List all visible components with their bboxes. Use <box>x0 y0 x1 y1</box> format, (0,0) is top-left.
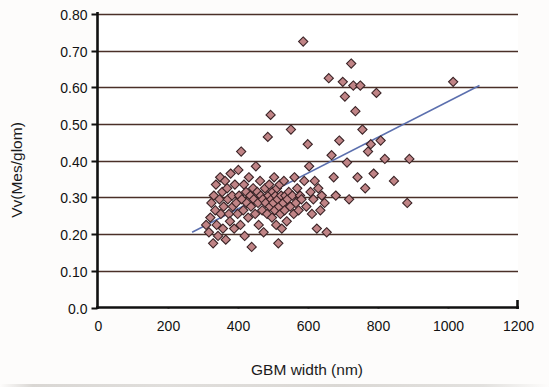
y-tick-label: 0.20 <box>60 227 87 243</box>
y-tick-label: 0.40 <box>60 154 87 170</box>
x-tick-label: 1000 <box>433 318 464 334</box>
y-axis-title: Vv(Mes/glom) <box>8 122 25 218</box>
x-tick-label: 400 <box>227 318 251 334</box>
x-axis-title: GBM width (nm) <box>251 361 363 378</box>
y-tick-label: 0.70 <box>60 44 87 60</box>
x-tick-label: 0 <box>95 318 103 334</box>
x-tick-label: 1200 <box>503 318 534 334</box>
y-tick-label: 0.10 <box>60 264 87 280</box>
x-tick-label: 600 <box>297 318 321 334</box>
x-tick-label: 800 <box>367 318 391 334</box>
y-tick-label: 0.60 <box>60 80 87 96</box>
y-tick-label: 0.80 <box>60 7 87 23</box>
y-tick-label: 0.0 <box>68 301 88 317</box>
chart-canvas: 0.00.100.200.300.400.500.600.700.80 0200… <box>0 0 549 387</box>
y-tick-label: 0.50 <box>60 117 87 133</box>
x-axis-ticks: 020040060080010001200 <box>95 308 535 334</box>
x-tick-label: 200 <box>157 318 181 334</box>
scatter-plot-figure: 0.00.100.200.300.400.500.600.700.80 0200… <box>0 0 549 387</box>
y-tick-label: 0.30 <box>60 190 87 206</box>
y-axis-ticks: 0.00.100.200.300.400.500.600.700.80 <box>60 7 97 317</box>
